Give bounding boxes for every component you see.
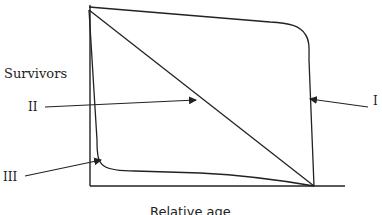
survivorship-diagram: Survivors Relative age I II III (0, 0, 382, 215)
curve-label-II: II (28, 100, 37, 114)
diagram-canvas (0, 0, 382, 215)
curve-label-III: III (3, 170, 17, 184)
arrow-I (310, 99, 368, 107)
x-axis-label: Relative age (150, 204, 231, 215)
curve-II (89, 10, 314, 186)
y-axis-label: Survivors (4, 66, 67, 81)
arrow-II (45, 100, 196, 107)
curve-label-I: I (373, 94, 378, 108)
